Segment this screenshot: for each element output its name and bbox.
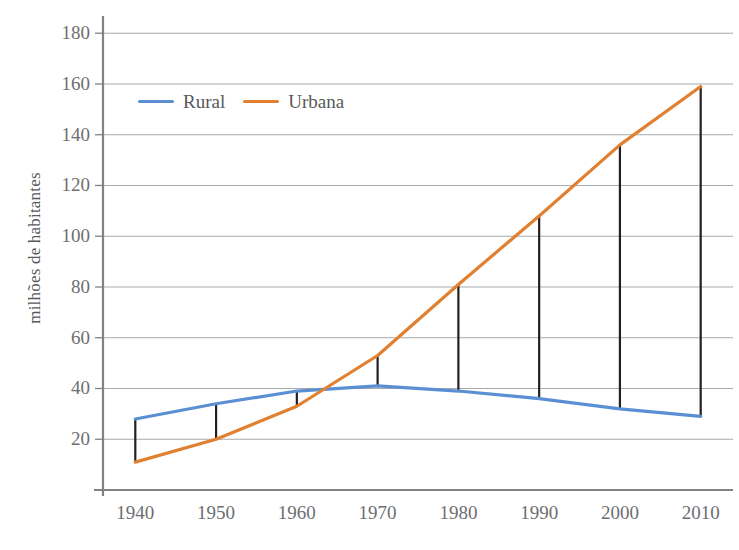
legend-entry-urbana[interactable]: Urbana <box>243 92 344 111</box>
legend-swatch-urbana <box>243 100 279 103</box>
plot-area <box>0 0 739 550</box>
legend-swatch-rural <box>138 100 174 103</box>
chart-legend: Rural Urbana <box>138 92 344 111</box>
legend-label-rural: Rural <box>183 92 225 111</box>
legend-entry-rural[interactable]: Rural <box>138 92 225 111</box>
chart-container: milhões de habitantes 204060801001201401… <box>0 0 739 550</box>
series-line-rural <box>135 386 700 419</box>
legend-label-urbana: Urbana <box>288 92 344 111</box>
series-line-urbana <box>135 87 700 463</box>
